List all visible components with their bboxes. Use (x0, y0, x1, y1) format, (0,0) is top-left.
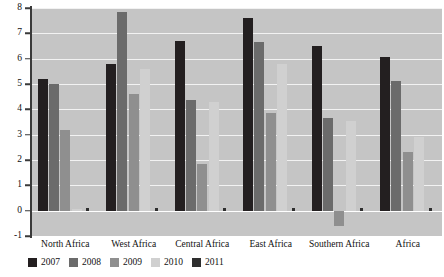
bar-2011-central-africa (223, 208, 226, 211)
y-tick-mark (25, 210, 31, 212)
y-tick-label: 8 (2, 3, 22, 13)
legend-swatch-2007 (28, 258, 37, 267)
legend-label-2010: 2010 (164, 258, 183, 268)
legend-swatch-2011 (192, 258, 201, 267)
y-tick-label: 1 (2, 181, 22, 191)
legend-swatch-2009 (110, 258, 119, 267)
category-label-east-africa: East Africa (237, 240, 306, 250)
legend-item-2007[interactable]: 2007 (28, 258, 60, 268)
y-tick-label: 7 (2, 29, 22, 39)
bar-2009-southern-africa (334, 211, 344, 226)
bar-2007-west-africa (106, 64, 116, 211)
y-tick-label: 5 (2, 79, 22, 89)
y-tick-mark (25, 235, 31, 237)
chart-legend: 20072008200920102011 (28, 258, 224, 268)
bar-2008-east-africa (254, 42, 264, 210)
y-tick-label: -1 (2, 231, 22, 241)
bar-2007-north-africa (38, 79, 48, 211)
bar-2007-africa (380, 57, 390, 210)
bar-2009-africa (403, 152, 413, 210)
bar-2009-north-africa (60, 130, 70, 211)
bar-2009-central-africa (197, 164, 207, 211)
bar-2009-west-africa (129, 94, 139, 211)
bar-2008-north-africa (49, 84, 59, 211)
bar-2009-east-africa (266, 113, 276, 211)
bar-2008-central-africa (186, 100, 196, 210)
category-label-central-africa: Central Africa (168, 240, 237, 250)
y-axis-line (30, 6, 32, 238)
bar-2007-central-africa (175, 41, 185, 211)
gridline (31, 8, 442, 9)
bar-2008-africa (391, 81, 401, 210)
bar-2007-southern-africa (312, 46, 322, 211)
bar-2011-southern-africa (360, 208, 363, 211)
legend-item-2009[interactable]: 2009 (110, 258, 142, 268)
y-tick-label: 0 (2, 206, 22, 216)
legend-item-2008[interactable]: 2008 (69, 258, 101, 268)
gridline (31, 33, 442, 34)
bar-2011-africa (429, 208, 432, 211)
bar-2008-southern-africa (323, 118, 333, 210)
legend-swatch-2010 (151, 258, 160, 267)
y-tick-mark (25, 159, 31, 161)
bar-2010-west-africa (140, 69, 150, 211)
y-tick-mark (25, 185, 31, 187)
y-tick-mark (25, 109, 31, 111)
bar-2010-east-africa (277, 64, 287, 211)
bar-2011-north-africa (86, 208, 89, 211)
y-tick-mark (25, 7, 31, 9)
category-label-africa: Africa (374, 240, 443, 250)
y-tick-label: 3 (2, 130, 22, 140)
y-tick-label: 6 (2, 54, 22, 64)
legend-label-2009: 2009 (123, 258, 142, 268)
legend-label-2011: 2011 (205, 258, 224, 268)
legend-label-2008: 2008 (82, 258, 101, 268)
y-tick-label: 4 (2, 105, 22, 115)
bar-chart: -1012345678 North AfricaWest AfricaCentr… (0, 0, 444, 277)
legend-swatch-2008 (69, 258, 78, 267)
category-label-west-africa: West Africa (100, 240, 169, 250)
y-tick-label: 2 (2, 155, 22, 165)
legend-item-2010[interactable]: 2010 (151, 258, 183, 268)
bar-2011-east-africa (292, 208, 295, 211)
y-tick-mark (25, 134, 31, 136)
y-tick-mark (25, 58, 31, 60)
bar-2010-africa (414, 137, 424, 210)
bar-2008-west-africa (117, 12, 127, 211)
bar-2011-west-africa (155, 208, 158, 211)
y-tick-mark (25, 33, 31, 35)
legend-item-2011[interactable]: 2011 (192, 258, 224, 268)
bar-2010-north-africa (72, 209, 82, 210)
category-label-north-africa: North Africa (31, 240, 100, 250)
category-label-southern-africa: Southern Africa (305, 240, 374, 250)
legend-label-2007: 2007 (41, 258, 60, 268)
bar-2007-east-africa (243, 18, 253, 211)
y-tick-mark (25, 83, 31, 85)
bar-2010-southern-africa (346, 121, 356, 211)
bar-2010-central-africa (209, 102, 219, 211)
zero-gridline (31, 211, 442, 212)
